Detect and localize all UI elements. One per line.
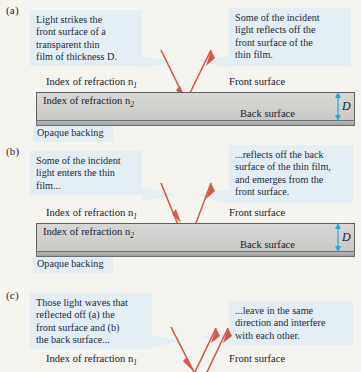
panel-a-thickness-letter: D [342,99,351,114]
panel-c-n1-label: Index of refraction n1 [46,353,137,367]
thickness-arrow-a [335,92,341,121]
panel-b-dimension [0,137,361,275]
reflected-ray-c-front [195,328,220,372]
panel-b: (b) Some of the incident light enters th… [0,137,361,275]
incident-ray-c [171,327,194,372]
panel-b-thickness-letter: D [342,230,351,245]
panel-c-front-surface-label: Front surface [229,353,285,364]
panel-a: (a) Light strikes the front surface of a… [0,0,361,137]
panel-b-backing-callout: Opaque backing [33,257,113,273]
thickness-arrow-b [335,223,341,252]
panel-a-dimension [0,0,361,137]
panel-c: (c) Those light waves that reflected off… [0,275,361,372]
